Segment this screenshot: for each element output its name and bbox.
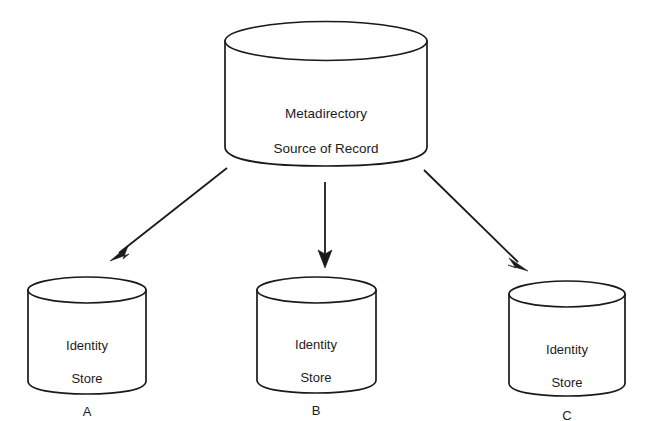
- arrow-c-shaft: [424, 170, 518, 262]
- store-b-cylinder-body: [257, 290, 376, 393]
- store-a-cylinder-body: [28, 290, 146, 394]
- arrow-root-to-store-c[interactable]: [424, 170, 528, 271]
- identity-store-c-shape[interactable]: [509, 281, 625, 396]
- arrow-c-head: [508, 258, 528, 271]
- arrow-a-head: [110, 246, 129, 261]
- store-b-cylinder-top-cap: [257, 277, 376, 303]
- arrow-root-to-store-a[interactable]: [110, 168, 227, 261]
- store-c-cylinder-body: [509, 294, 625, 396]
- store-c-cylinder-top-cap: [509, 281, 625, 307]
- identity-store-b-shape[interactable]: [257, 277, 376, 393]
- arrow-root-to-store-b[interactable]: [318, 182, 332, 268]
- diagram-vector-layer: [0, 0, 648, 421]
- diagram-canvas: Metadirectory Source of Record Identity …: [0, 0, 648, 421]
- arrow-a-shaft: [119, 168, 227, 253]
- identity-store-a-shape[interactable]: [28, 277, 146, 394]
- metadirectory-source-of-record-shape[interactable]: [225, 22, 427, 167]
- root-cylinder-top-cap: [225, 22, 427, 61]
- store-a-cylinder-top-cap: [28, 277, 146, 303]
